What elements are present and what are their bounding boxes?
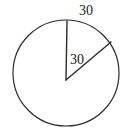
vertical-radius-line	[66, 21, 67, 80]
geometry-figure: 30 30	[0, 0, 132, 133]
arc-length-label: 30	[79, 4, 93, 18]
circle-sector-drawing	[0, 0, 132, 133]
radius-length-label: 30	[70, 53, 84, 67]
